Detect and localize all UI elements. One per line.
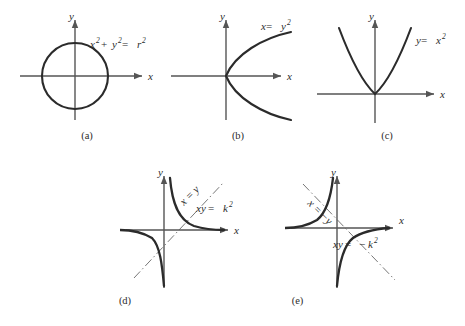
eq-a-equals: = [122,38,128,50]
caption-e: (e) [215,295,380,306]
hyperbola-branch-q3 [120,230,164,286]
panel-c-plot: x y y = x 2 [312,8,462,128]
eq-c-x-sup: 2 [442,32,446,41]
equation-label-e: xy = − k 2 [332,236,378,250]
x-axis-label: x [233,224,239,236]
eq-d-equals: = [208,202,214,214]
x-axis-arrow [426,91,434,97]
x-axis-label: x [286,70,292,82]
eq-c-equals: = [421,34,427,46]
panel-b-plot: x y x = y 2 [163,8,313,128]
eq-a-r-sup: 2 [142,36,146,45]
panel-b: x y x = y 2 (b) [163,8,313,128]
eq-c-x: x [435,34,441,46]
eq-e-minus: − [359,238,365,250]
eq-d-xy: xy [195,202,206,214]
x-axis-arrow [134,73,142,79]
eq-d-k-sup: 2 [229,200,233,209]
x-axis-arrow [273,73,281,79]
caption-d: (d) [45,295,205,306]
equation-label-d: xy = k 2 [195,200,233,214]
eq-a-x: x [89,38,95,50]
y-axis-label: y [68,10,74,22]
equation-label-b: x = y 2 [260,18,291,32]
panel-e: x y x = −y xy = − k 2 (e) [285,168,450,293]
asymptote-label-e: x = −y [305,196,336,227]
eq-b-y: y [280,20,286,32]
y-axis-label: y [157,168,163,178]
asymptote-label-e-text: x = −y [305,196,336,227]
eq-a-plus: + [101,38,107,50]
eq-a-x-sup: 2 [96,36,100,45]
panel-d-plot: x y xy x = y xy = k 2 [120,168,280,293]
eq-b-equals: = [266,20,272,32]
y-axis-label: y [219,10,225,22]
x-axis-label: x [147,70,153,82]
conic-sections-figure: x y x 2 + y 2 = r 2 (a) x y [0,0,465,326]
panel-d: x y xy x = y xy = k 2 (d) [120,168,280,293]
eq-a-y: y [111,38,117,50]
equation-label-a: x 2 + y 2 = r 2 [89,36,146,50]
panel-a: x y x 2 + y 2 = r 2 (a) [12,8,162,128]
caption-c: (c) [312,130,462,141]
eq-e-k-sup: 2 [374,236,378,245]
y-axis-label: y [330,168,336,178]
equation-label-c: y = x 2 [415,32,446,46]
caption-a: (a) [12,130,162,141]
panel-a-plot: x y x 2 + y 2 = r 2 [12,8,162,128]
eq-e-xy: xy [332,238,343,250]
x-axis-label: x [439,88,445,100]
eq-b-y-sup: 2 [287,18,291,27]
panel-c: x y y = x 2 (c) [312,8,462,128]
panel-e-plot: x y x = −y xy = − k 2 [285,168,450,293]
hyperbola-branch-q4 [337,228,389,286]
y-axis-label: y [368,10,374,22]
x-axis-label: x [398,214,404,226]
eq-e-equals: = [345,238,351,250]
caption-b: (b) [163,130,313,141]
